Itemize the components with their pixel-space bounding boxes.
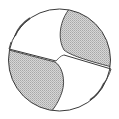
drill-cross-section-svg [0, 0, 119, 119]
drill-end-view-diagram [0, 0, 119, 119]
